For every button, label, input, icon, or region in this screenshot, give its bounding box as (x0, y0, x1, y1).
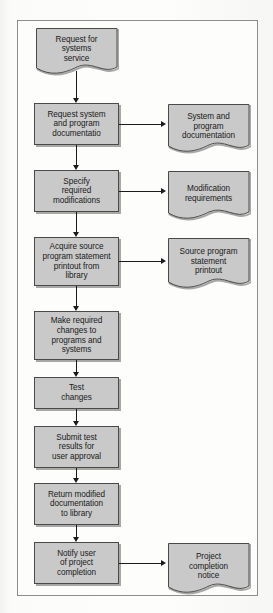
arrowhead-down (73, 98, 79, 103)
node-label: Testchanges (59, 383, 94, 402)
node-specify-modifications: Specifyrequiredmodifications (34, 170, 119, 212)
connector-request-system-to-specify (76, 145, 77, 165)
node-label: Request systemand programdocumentatio (46, 110, 108, 139)
connector-acquire-to-make-changes (76, 286, 77, 306)
arrowhead-down (73, 537, 79, 542)
node-acquire-source-printout: Acquire sourceprogram statementprintout … (34, 237, 119, 286)
node-label: Projectcompletionnotice (186, 552, 231, 581)
flowchart-page: Request forsystemsservice Request system… (0, 0, 273, 613)
arrowhead-down (73, 306, 79, 311)
node-modification-requirements: Modificationrequirements (166, 170, 251, 225)
connector-submit-to-return (76, 468, 77, 478)
arrowhead-down (73, 372, 79, 377)
node-label: Submit testresults foruser approval (50, 433, 103, 462)
node-label: Notify userof projectcompletion (55, 549, 98, 578)
node-return-documentation: Return modifieddocumentationto library (34, 483, 119, 525)
connector-make-changes-to-test (76, 360, 77, 372)
arrowhead-down (73, 478, 79, 483)
connector-acquire-to-printout (119, 261, 161, 262)
arrowhead-down (73, 165, 79, 170)
node-label: Specifyrequiredmodifications (51, 177, 102, 206)
node-label: Return modifieddocumentationto library (46, 490, 107, 519)
node-notify-user: Notify userof projectcompletion (34, 542, 119, 584)
node-project-completion-notice: Projectcompletionnotice (166, 542, 251, 599)
arrowhead-down (73, 421, 79, 426)
node-test-changes: Testchanges (34, 377, 119, 409)
node-make-changes: Make requiredchanges toprograms andsyste… (34, 311, 119, 360)
node-label: Request forsystemsservice (53, 35, 101, 64)
node-system-program-documentation: System andprogramdocumentation (166, 103, 251, 158)
connector-specify-to-acquire (76, 212, 77, 232)
node-label: Acquire sourceprogram statementprintout … (41, 242, 113, 280)
node-submit-test-results: Submit testresults foruser approval (34, 426, 119, 468)
arrowhead-down (73, 232, 79, 237)
node-request-system-documentation: Request systemand programdocumentatio (34, 103, 119, 145)
connector-specify-to-requirements (119, 191, 161, 192)
node-request-for-service: Request forsystemsservice (34, 27, 119, 79)
node-source-program-printout: Source programstatementprintout (166, 237, 251, 294)
node-label: System andprogramdocumentation (179, 112, 238, 141)
flowchart-frame: Request forsystemsservice Request system… (17, 20, 258, 596)
connector-return-to-notify (76, 525, 77, 537)
connector-notify-to-notice (119, 563, 161, 564)
connector-request-system-to-doc (119, 124, 161, 125)
connector-test-to-submit (76, 409, 77, 421)
node-label: Source programstatementprintout (176, 247, 240, 276)
node-label: Make requiredchanges toprograms andsyste… (49, 316, 105, 354)
node-label: Modificationrequirements (182, 184, 235, 203)
